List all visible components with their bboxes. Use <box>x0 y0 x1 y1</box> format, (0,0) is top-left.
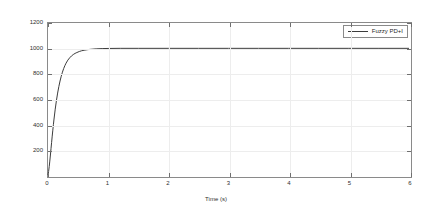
y-axis-tick <box>48 49 52 50</box>
y-axis-tick <box>407 126 411 127</box>
gridline-vertical <box>109 23 110 177</box>
x-axis-tick-label: 5 <box>340 180 360 186</box>
y-axis-tick <box>48 74 52 75</box>
y-axis-tick <box>48 126 52 127</box>
gridline-vertical <box>169 23 170 177</box>
y-axis-tick <box>48 100 52 101</box>
x-axis-tick <box>230 23 231 27</box>
y-axis-tick-label: 400 <box>17 122 43 128</box>
gridline-vertical <box>351 23 352 177</box>
x-axis-tick <box>169 173 170 177</box>
y-axis-tick <box>48 151 52 152</box>
y-axis-tick-label: 600 <box>17 96 43 102</box>
x-axis-tick <box>290 173 291 177</box>
y-axis-tick <box>407 100 411 101</box>
x-axis-tick <box>109 173 110 177</box>
x-axis-tick-label: 6 <box>400 180 420 186</box>
x-axis-tick <box>169 23 170 27</box>
x-axis-tick-label: 1 <box>98 180 118 186</box>
y-axis-tick <box>407 151 411 152</box>
plot-area: Fuzzy PD+I <box>47 22 412 178</box>
x-axis-tick <box>411 173 412 177</box>
gridline-vertical <box>290 23 291 177</box>
x-axis-tick <box>351 23 352 27</box>
x-axis-tick <box>351 173 352 177</box>
y-axis-tick-label: 200 <box>17 147 43 153</box>
x-axis-tick <box>230 173 231 177</box>
y-axis-tick-label: 1200 <box>17 19 43 25</box>
x-axis-tick <box>48 23 49 27</box>
chart-legend[interactable]: Fuzzy PD+I <box>343 25 408 38</box>
figure-canvas: Fuzzy PD+I Speed (rad/s) Time (s) 200400… <box>0 0 432 216</box>
x-axis-tick <box>290 23 291 27</box>
x-axis-tick <box>109 23 110 27</box>
x-axis-tick-label: 3 <box>219 180 239 186</box>
legend-item-label: Fuzzy PD+I <box>372 28 403 35</box>
y-axis-tick <box>407 74 411 75</box>
x-axis-tick-label: 2 <box>158 180 178 186</box>
gridline-vertical <box>230 23 231 177</box>
x-axis-title: Time (s) <box>0 196 432 202</box>
y-axis-tick <box>407 49 411 50</box>
x-axis-tick-label: 4 <box>279 180 299 186</box>
x-axis-tick <box>48 173 49 177</box>
y-axis-tick-label: 1000 <box>17 45 43 51</box>
x-axis-tick <box>411 23 412 27</box>
x-axis-tick-label: 0 <box>37 180 57 186</box>
y-axis-tick-label: 800 <box>17 70 43 76</box>
